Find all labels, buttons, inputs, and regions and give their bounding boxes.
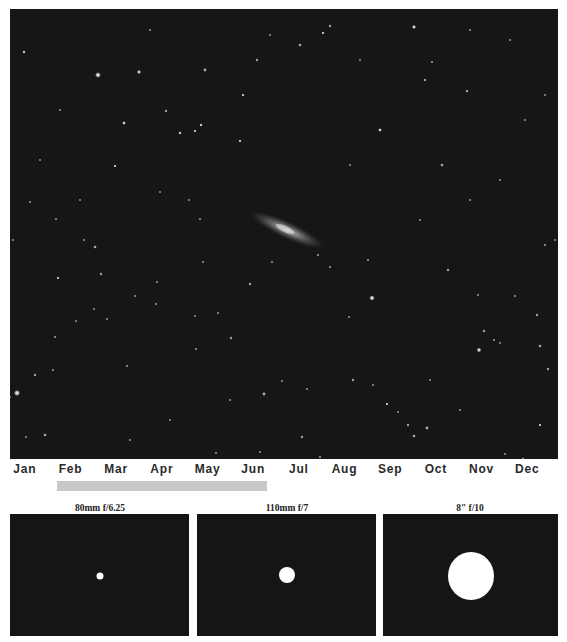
star <box>54 336 56 338</box>
scope-view-80mm <box>10 514 189 636</box>
star <box>215 452 217 454</box>
star <box>385 402 388 405</box>
month-label-nov: Nov <box>469 462 494 476</box>
star <box>155 303 157 305</box>
star <box>178 131 182 135</box>
star <box>263 393 266 396</box>
star <box>199 218 201 220</box>
star <box>100 273 102 275</box>
star <box>126 365 128 367</box>
star <box>217 312 219 314</box>
star <box>349 164 351 166</box>
object-size-disc <box>97 573 104 580</box>
star <box>544 244 546 246</box>
star <box>299 44 302 47</box>
star <box>165 110 167 112</box>
star <box>547 368 549 370</box>
star <box>522 458 524 459</box>
month-label-oct: Oct <box>425 462 447 476</box>
star <box>79 199 81 201</box>
star <box>202 261 204 263</box>
star <box>134 295 136 297</box>
star <box>188 199 190 201</box>
star <box>241 93 244 96</box>
month-label-feb: Feb <box>59 462 83 476</box>
month-label-jan: Jan <box>13 462 36 476</box>
object-size-disc <box>279 567 295 583</box>
star <box>75 320 77 322</box>
month-label-may: May <box>195 462 221 476</box>
star <box>426 427 429 430</box>
star <box>230 337 232 339</box>
star <box>544 94 546 96</box>
visibility-bar <box>57 481 268 491</box>
star <box>10 396 11 398</box>
star <box>306 388 308 390</box>
star <box>378 128 382 132</box>
star <box>483 330 485 332</box>
star <box>329 25 331 27</box>
star <box>93 308 95 310</box>
star <box>372 384 374 386</box>
star <box>83 239 85 241</box>
star <box>424 79 426 81</box>
star <box>412 25 416 29</box>
star <box>44 434 47 437</box>
scope-label-110mm: 110mm f/7 <box>266 503 308 513</box>
star <box>539 424 542 427</box>
star <box>429 379 431 381</box>
star <box>159 191 161 193</box>
star <box>195 348 197 350</box>
star <box>194 315 196 317</box>
star <box>504 453 506 455</box>
star <box>122 121 126 125</box>
star <box>12 239 14 241</box>
star <box>39 159 41 161</box>
star <box>477 348 482 353</box>
star <box>413 435 416 438</box>
star <box>367 259 369 261</box>
month-label-mar: Mar <box>104 462 128 476</box>
star <box>106 318 108 320</box>
star <box>149 29 151 31</box>
star <box>554 239 556 241</box>
star <box>397 411 399 413</box>
star <box>269 34 271 36</box>
star <box>524 119 526 121</box>
star <box>536 314 538 316</box>
star <box>419 219 421 221</box>
star <box>59 109 61 111</box>
star <box>509 39 511 41</box>
star <box>156 281 158 283</box>
star <box>239 140 242 143</box>
star <box>25 436 27 438</box>
star <box>94 246 97 249</box>
star <box>22 50 26 54</box>
star <box>499 342 501 344</box>
star <box>259 451 261 453</box>
star <box>441 164 444 167</box>
month-label-apr: Apr <box>150 462 173 476</box>
star <box>317 254 319 256</box>
scope-label-8inch: 8" f/10 <box>456 503 484 513</box>
scope-view-110mm <box>197 514 376 636</box>
scope-view-8inch <box>383 514 558 636</box>
star <box>249 283 251 285</box>
star <box>55 218 57 220</box>
star <box>466 90 468 92</box>
star <box>113 164 116 167</box>
star <box>348 316 350 318</box>
star <box>57 277 60 280</box>
star <box>369 295 375 301</box>
star <box>447 269 449 271</box>
star <box>459 409 461 411</box>
star <box>514 295 516 297</box>
star <box>14 390 20 396</box>
star <box>204 69 207 72</box>
sky-image <box>10 9 558 459</box>
star <box>229 399 231 401</box>
star <box>477 294 479 296</box>
star-field <box>10 9 558 459</box>
star <box>281 380 283 382</box>
star <box>199 123 203 127</box>
